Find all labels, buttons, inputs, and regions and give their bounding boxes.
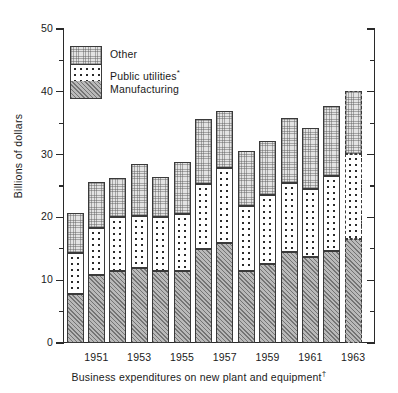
bar-segment-1963-other [345, 91, 362, 154]
bar-segment-1960-public-utilities [281, 183, 298, 252]
bar-segment-1951-public-utilities [88, 228, 105, 275]
bar-segment-1955-public-utilities [174, 214, 191, 272]
bar-segment-1959-public-utilities [259, 195, 276, 264]
x-tick-label-1951: 1951 [76, 351, 116, 363]
asterisk-footnote-marker: * [177, 68, 180, 77]
bar-1953 [131, 164, 148, 343]
x-axis-caption: Business expenditures on new plant and e… [0, 369, 398, 383]
bar-1960 [281, 118, 298, 343]
bar-segment-1957-other [216, 111, 233, 168]
legend-swatch-stack [70, 46, 102, 99]
bar-segment-1959-other [259, 141, 276, 195]
bar-segment-1963-public-utilities [345, 154, 362, 239]
bar-1956 [195, 119, 212, 343]
bar-1952 [109, 178, 126, 343]
bar-segment-1955-other [174, 162, 191, 213]
bar-segment-1958-other [238, 151, 255, 206]
x-tick-label-1955: 1955 [162, 351, 202, 363]
x-tick-label-1961: 1961 [290, 351, 330, 363]
bar-segment-1951-other [88, 182, 105, 228]
legend-item-manufacturing: Manufacturing [110, 81, 270, 99]
bar-segment-1953-manufacturing [131, 268, 148, 343]
bar-segment-1961-manufacturing [302, 257, 319, 343]
bar-segment-1952-public-utilities [109, 217, 126, 272]
bar-segment-1955-manufacturing [174, 271, 191, 343]
bar-1955 [174, 162, 191, 343]
legend-swatch-other [71, 47, 101, 64]
x-tick-label-1953: 1953 [119, 351, 159, 363]
bar-segment-1954-public-utilities [152, 217, 169, 270]
x-axis-caption-text: Business expenditures on new plant and e… [72, 371, 322, 383]
bar-segment-1962-public-utilities [323, 176, 340, 251]
bar-1963 [345, 91, 362, 343]
legend-item-label: Public utilities [110, 69, 177, 81]
bar-segment-1950-manufacturing [67, 294, 84, 343]
x-tick-label-1963: 1963 [333, 351, 373, 363]
bar-segment-1961-public-utilities [302, 189, 319, 257]
bar-segment-1960-manufacturing [281, 252, 298, 343]
bar-1951 [88, 182, 105, 343]
bar-segment-1961-other [302, 128, 319, 190]
bar-segment-1962-manufacturing [323, 251, 340, 343]
bar-1957 [216, 111, 233, 343]
bar-segment-1956-other [195, 119, 212, 183]
bar-1958 [238, 151, 255, 343]
legend-item-other: Other [110, 46, 270, 64]
legend-item-public-utilities: Public utilities* [110, 64, 270, 82]
bar-segment-1952-other [109, 178, 126, 216]
legend-item-label: Other [110, 48, 137, 60]
bar-segment-1953-other [131, 164, 148, 215]
x-tick-label-1957: 1957 [205, 351, 245, 363]
bar-segment-1956-manufacturing [195, 249, 212, 343]
bar-segment-1954-manufacturing [152, 271, 169, 343]
bar-1954 [152, 177, 169, 343]
bar-segment-1950-public-utilities [67, 253, 84, 294]
bar-segment-1958-public-utilities [238, 206, 255, 271]
bar-1961 [302, 128, 319, 343]
legend-item-label: Manufacturing [110, 83, 179, 95]
bar-segment-1956-public-utilities [195, 184, 212, 249]
bar-segment-1952-manufacturing [109, 271, 126, 343]
bar-segment-1963-manufacturing [345, 239, 362, 343]
bar-1959 [259, 141, 276, 343]
bar-segment-1962-other [323, 106, 340, 176]
bar-segment-1957-public-utilities [216, 168, 233, 243]
legend-labels: OtherPublic utilities*Manufacturing [110, 46, 270, 99]
bar-segment-1959-manufacturing [259, 264, 276, 343]
bar-segment-1960-other [281, 118, 298, 183]
bar-segment-1951-manufacturing [88, 275, 105, 343]
bar-1962 [323, 106, 340, 343]
bar-segment-1954-other [152, 177, 169, 218]
bar-segment-1953-public-utilities [131, 216, 148, 269]
chart-figure: Billions of dollars 01020304050 19511953… [0, 0, 398, 393]
dagger-footnote-marker: † [322, 369, 327, 378]
bar-segment-1957-manufacturing [216, 243, 233, 343]
legend-swatch-manufacturing [71, 81, 101, 98]
bar-segment-1950-other [67, 213, 84, 253]
bar-segment-1958-manufacturing [238, 271, 255, 343]
bar-1950 [67, 213, 84, 343]
x-tick-label-1959: 1959 [248, 351, 288, 363]
